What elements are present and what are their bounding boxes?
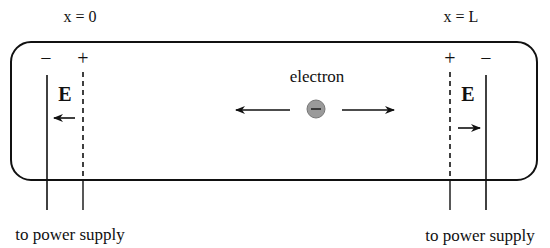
position-label-xL: x = L [444,8,479,25]
right-power-supply-label: to power supply [425,226,535,245]
right-positive-sign: + [444,47,455,69]
tube-outline [11,42,537,180]
left-field-label: E [58,83,71,105]
right-field-label: E [461,83,474,105]
left-negative-sign: − [40,47,51,69]
right-negative-sign: − [480,47,491,69]
electron-field-diagram: x = 0 x = L − + E + − E electron to powe… [0,0,550,248]
left-power-supply-label: to power supply [15,225,125,244]
position-label-x0: x = 0 [63,8,96,25]
electron-label: electron [290,67,345,86]
left-positive-sign: + [77,47,88,69]
